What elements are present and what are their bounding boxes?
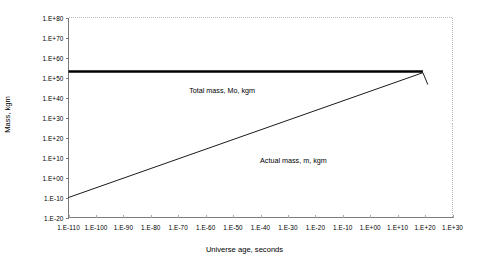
y-axis-title: Mass, kgm: [3, 75, 12, 155]
x-axis-title: Universe age, seconds: [0, 245, 489, 254]
y-tick-label: 1.E+30: [20, 114, 64, 121]
x-tick-label: 1.E-70: [168, 224, 187, 231]
x-tick-label: 1.E+30: [442, 224, 463, 231]
series-annotation: Total mass, Mo, kgm: [189, 86, 255, 95]
y-tick-label: 1.E+50: [20, 74, 64, 81]
y-tick-label: 1.E+60: [20, 54, 64, 61]
y-tick-label: 1.E+70: [20, 34, 64, 41]
y-tick-label: 1.E+40: [20, 94, 64, 101]
y-tick-label: 1.E+00: [20, 174, 64, 181]
x-tick-label: 1.E-90: [114, 224, 133, 231]
x-tick-label: 1.E-20: [306, 224, 325, 231]
x-tick-label: 1.E-100: [84, 224, 107, 231]
chart-container: 1.E+801.E+701.E+601.E+501.E+401.E+301.E+…: [0, 0, 489, 271]
y-tick-label: 1.E-10: [20, 194, 64, 201]
x-tick-label: 1.E-110: [57, 224, 80, 231]
y-tick-label: 1.E+80: [20, 14, 64, 21]
y-tick-label: 1.E+20: [20, 134, 64, 141]
x-tick-label: 1.E+00: [360, 224, 381, 231]
x-tick-label: 1.E+20: [415, 224, 436, 231]
x-tick-label: 1.E-80: [141, 224, 160, 231]
x-tick-label: 1.E-60: [196, 224, 215, 231]
series-annotation: Actual mass, m, kgm: [260, 156, 327, 165]
x-tick-label: 1.E+10: [387, 224, 408, 231]
y-tick-label: 1.E+10: [20, 154, 64, 161]
x-tick-label: 1.E-50: [223, 224, 242, 231]
x-tick-label: 1.E-30: [278, 224, 297, 231]
x-tick-label: 1.E-10: [333, 224, 352, 231]
x-tick-label: 1.E-40: [251, 224, 270, 231]
y-tick-label: 1.E-20: [20, 214, 64, 221]
